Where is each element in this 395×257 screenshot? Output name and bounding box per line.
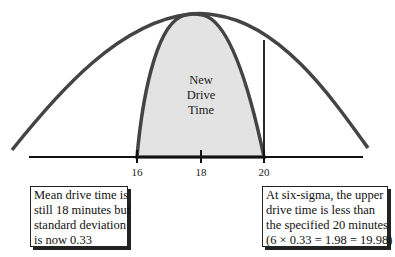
- tick-label-18: 18: [196, 166, 207, 178]
- tick-label-16: 16: [132, 166, 143, 178]
- note-line: is now 0.33: [34, 233, 124, 248]
- label-line: Time: [171, 103, 231, 118]
- new-drive-time-label: New Drive Time: [171, 73, 231, 118]
- note-line: Mean drive time is: [34, 188, 124, 203]
- label-line: New: [171, 73, 231, 88]
- note-line: At six-sigma, the upper: [266, 188, 384, 203]
- six-sigma-note-box: At six-sigma, the upper drive time is le…: [262, 186, 388, 247]
- note-line: drive time is less than: [266, 203, 384, 218]
- note-line: still 18 minutes but: [34, 203, 124, 218]
- note-line: the specified 20 minutes: [266, 218, 384, 233]
- mean-note-box: Mean drive time is still 18 minutes but …: [30, 186, 128, 247]
- label-line: Drive: [171, 88, 231, 103]
- note-line: standard deviation: [34, 218, 124, 233]
- tick-label-20: 20: [259, 166, 270, 178]
- note-line: (6 × 0.33 = 1.98 = 19.98): [266, 233, 384, 248]
